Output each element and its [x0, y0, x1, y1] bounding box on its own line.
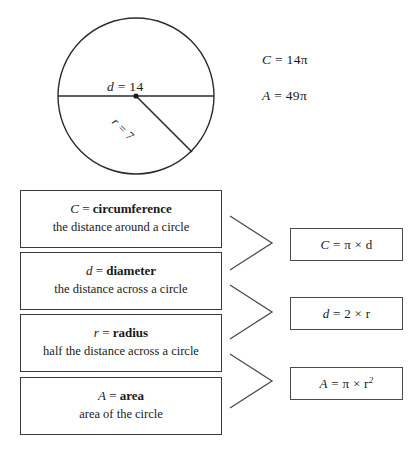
definition-symbol-d: d [86, 263, 93, 278]
definition-equals-1: = [96, 263, 103, 278]
formula-rhs-a: = π × r [331, 376, 368, 391]
radius-line [136, 96, 192, 152]
definition-description-circumference: the distance around a circle [21, 218, 221, 237]
worked-symbol-a: A [262, 88, 271, 103]
formula-rhs-c: = π × d [333, 237, 373, 252]
definition-description-area: area of the circle [21, 405, 221, 424]
formula-exponent-a: 2 [369, 375, 374, 385]
definition-description-radius: half the distance across a circle [21, 342, 221, 361]
formula-rhs-d: = 2 × r [333, 306, 370, 321]
formula-box-diameter: d = 2 × r [290, 297, 403, 330]
definition-equals-0: = [82, 201, 89, 216]
worked-expression-a: = 49π [274, 88, 307, 103]
definition-equals-3: = [109, 388, 116, 403]
circle-formulas-diagram: d = 14 r = 7 C = 14π A = 49π C = circumf… [0, 0, 417, 455]
formula-box-circumference: C = π × d [290, 228, 403, 261]
definition-term-diameter: d = diameter [21, 261, 221, 280]
formula-box-area: A = π × r2 [290, 367, 403, 400]
definition-equals-2: = [102, 325, 109, 340]
worked-expression-c: = 14π [275, 52, 308, 67]
definition-word-radius: radius [113, 325, 148, 340]
diameter-label: d = 14 [107, 79, 143, 95]
definition-term-area: A = area [21, 386, 221, 405]
definition-term-radius: r = radius [21, 323, 221, 342]
definition-word-circumference: circumference [93, 201, 172, 216]
definition-symbol-c: C [70, 201, 79, 216]
formula-text-area: A = π × r2 [319, 375, 373, 392]
formula-lhs-d: d [323, 306, 330, 321]
diameter-value: = 14 [118, 79, 144, 94]
circle-figure: d = 14 r = 7 [50, 10, 230, 185]
definition-box-area: A = area area of the circle [20, 377, 222, 435]
definition-description-diameter: the distance across a circle [21, 280, 221, 299]
worked-values-group: C = 14π A = 49π [262, 52, 392, 124]
chevron-icon-circumference [228, 214, 276, 272]
worked-symbol-c: C [262, 52, 271, 67]
chevron-icon-diameter [228, 283, 276, 341]
definition-box-diameter: d = diameter the distance across a circl… [20, 252, 222, 310]
definition-word-area: area [120, 388, 144, 403]
definition-symbol-a: A [98, 388, 106, 403]
definition-word-diameter: diameter [106, 263, 156, 278]
worked-value-circumference: C = 14π [262, 52, 392, 68]
formula-text-diameter: d = 2 × r [323, 306, 371, 322]
formula-lhs-c: C [320, 237, 329, 252]
definition-box-radius: r = radius half the distance across a ci… [20, 314, 222, 372]
diameter-symbol: d [107, 79, 114, 94]
worked-value-area: A = 49π [262, 88, 392, 104]
definition-symbol-r: r [94, 325, 99, 340]
definition-term-circumference: C = circumference [21, 199, 221, 218]
formula-lhs-a: A [319, 376, 327, 391]
chevron-icon-area [228, 352, 276, 410]
definition-box-circumference: C = circumference the distance around a … [20, 190, 222, 248]
formula-text-circumference: C = π × d [320, 237, 372, 253]
